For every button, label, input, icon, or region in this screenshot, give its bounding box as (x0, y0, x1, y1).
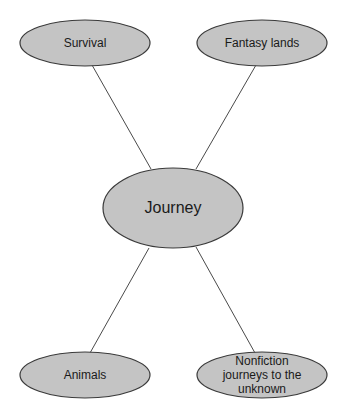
node-survival (20, 20, 150, 66)
node-fantasy-lands (197, 20, 327, 66)
node-journey (103, 168, 243, 248)
node-animals (20, 352, 150, 398)
node-nonfiction (197, 352, 327, 398)
concept-web-diagram (0, 0, 343, 419)
connector-nonfiction (196, 247, 255, 353)
connector-animals (90, 248, 149, 353)
connector-fantasy-lands (196, 65, 256, 169)
connector-survival (92, 65, 151, 169)
